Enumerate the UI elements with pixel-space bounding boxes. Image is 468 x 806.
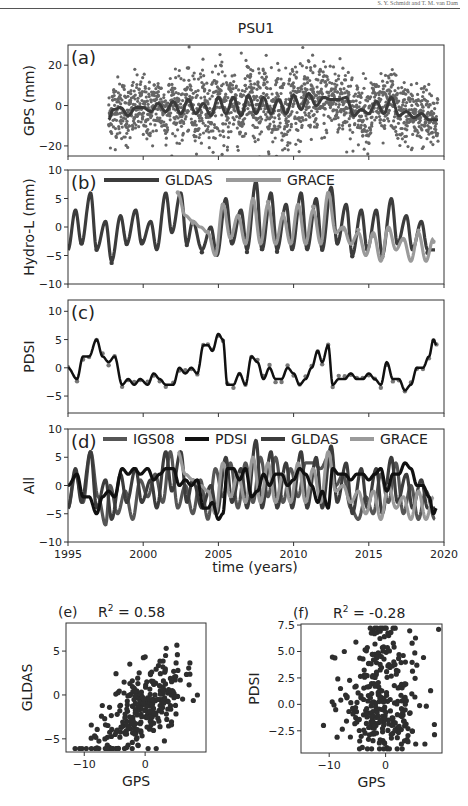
legend-d: IGS08PDSIGLDASGRACE [103,431,428,447]
panel-c: −50510PDSI(c) [21,300,444,417]
xtick-label: 2000 [129,548,157,561]
ytick-label: 0.0 [278,698,296,711]
ytick-label: −2.5 [268,725,295,738]
panel-e: −505−100GLDAS(e)R2 = 0.58GPS [19,603,206,789]
panels: −20020GPS (mm)(a)−10−50510Hydro-L (mm)(b… [19,45,458,790]
ytick-label: 10 [48,305,62,318]
legend-b: GLDASGRACE [104,172,335,188]
xlabel-f: GPS [357,774,385,790]
xtick-label: 0 [142,758,149,771]
ytick-label: 7.5 [278,619,296,632]
figure-title: PSU1 [238,20,274,36]
panel-a: −20020GPS (mm)(a) [21,45,444,180]
ytick-label: 2.5 [278,672,296,685]
panel-d: −10−50510199520002005201020152020All(d)I… [21,423,458,561]
ylabel-d: All [21,477,37,494]
ytick-label: −20 [39,140,62,153]
ytick-label: 5 [53,645,60,658]
pdsi-line-c [68,334,436,391]
legend-label-gldas: GLDAS [165,172,213,188]
ytick-label: 0 [55,100,62,113]
legend-label-igs08: IGS08 [133,431,175,447]
ytick-label: −5 [44,733,60,746]
xtick-label: 2020 [430,548,458,561]
legend-label-grace: GRACE [380,431,428,447]
plot-area-c [66,333,439,393]
axes-frame-c [68,300,444,413]
plot-area-a [107,45,440,180]
plot-area-f [321,626,441,752]
r-squared-title-e: R2 = 0.58 [98,603,165,620]
xtick-label: 2015 [355,548,383,561]
ytick-label: −5 [46,250,62,263]
gldas-line-b [68,182,435,262]
ylabel-a: GPS (mm) [21,65,37,136]
xtick-label: 0 [382,759,389,772]
ytick-label: −10 [39,278,62,291]
ytick-label: −5 [46,390,62,403]
ylabel-f: PDSI [246,672,262,704]
legend-label-grace: GRACE [287,172,335,188]
xtick-label: 1995 [54,548,82,561]
panel-label-f: (f) [293,605,309,621]
plot-area-b [66,182,436,265]
xtick-label: −10 [73,758,96,771]
panel-label-e: (e) [58,604,78,620]
ytick-label: 5 [55,193,62,206]
plot-area-e [73,643,200,752]
ytick-label: 5 [55,334,62,347]
ytick-label: 0 [55,221,62,234]
panel-f: −2.50.02.55.07.5−100PDSI(f)R2 = -0.28GPS [246,604,442,790]
ytick-label: 5 [55,451,62,464]
ytick-label: 0 [55,362,62,375]
panel-label-c: (c) [71,302,95,323]
ytick-label: 0 [55,480,62,493]
time-axis-label: time (years) [212,559,298,575]
legend-label-pdsi: PDSI [215,431,247,447]
panel-label-a: (a) [71,47,96,68]
ytick-label: −5 [46,508,62,521]
xtick-label: −10 [318,759,341,772]
ytick-label: 10 [48,164,62,177]
ylabel-b: Hydro-L (mm) [21,178,37,275]
ytick-label: 0 [53,689,60,702]
ylabel-e: GLDAS [19,664,35,712]
panel-label-d: (d) [71,431,96,452]
ylabel-c: PDSI [21,340,37,372]
ytick-label: 10 [48,423,62,436]
panel-b: −10−50510Hydro-L (mm)(b)GLDASGRACE [21,164,444,291]
panel-label-b: (b) [71,172,96,193]
ytick-label: 20 [48,59,62,72]
figure: PSU1 −20020GPS (mm)(a)−10−50510Hydro-L (… [0,0,468,806]
ytick-label: 5.0 [278,645,296,658]
plot-area-d [68,441,436,525]
xlabel-e: GPS [122,773,150,789]
r-squared-title-f: R2 = -0.28 [333,604,405,621]
legend-label-gldas: GLDAS [291,431,339,447]
